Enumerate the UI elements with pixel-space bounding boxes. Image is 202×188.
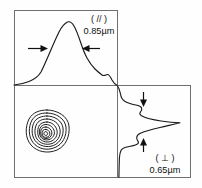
beam-profile-figure: ( // ) 0.85µm [0, 0, 202, 188]
perpendicular-value-label: 0.65µm [150, 165, 181, 175]
perpendicular-symbol-label: ( ⊥ ) [156, 153, 175, 163]
parallel-value-label: 0.85µm [84, 26, 115, 36]
figure-canvas: ( // ) 0.85µm [0, 0, 202, 188]
parallel-symbol-label: ( // ) [91, 14, 107, 24]
